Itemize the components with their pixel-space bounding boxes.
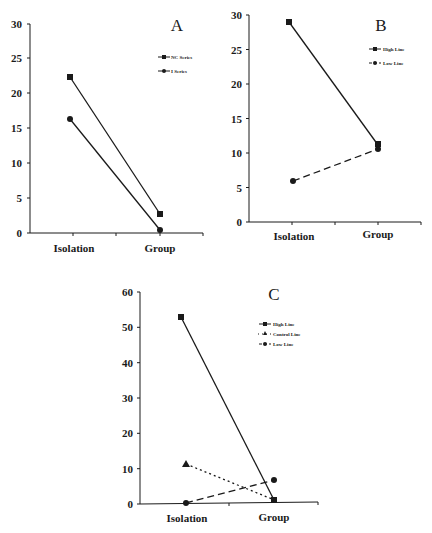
y-tick-label: 20: [11, 87, 23, 99]
legend-label: I Series: [171, 69, 187, 74]
series-high-line: [178, 314, 277, 503]
legend: NC Series I Series: [158, 55, 192, 74]
legend-label: Low Line: [273, 342, 294, 347]
legend-label: High Line: [383, 47, 405, 52]
circle-marker: [162, 69, 166, 73]
panel-label: A: [171, 16, 184, 35]
y-tick-label: 50: [122, 321, 134, 333]
y-tick-label: 15: [231, 113, 243, 125]
square-marker: [373, 47, 377, 51]
y-tick-label: 20: [231, 78, 243, 90]
x-category-label: Isolation: [167, 512, 208, 524]
x-category-label: Isolation: [274, 230, 315, 242]
figure: 0 5 10 15 20 25 30 Isolation Group A NC …: [0, 0, 432, 533]
y-tick-label: 60: [122, 286, 134, 298]
series-i: [67, 116, 163, 233]
y-tick-label: 20: [122, 427, 134, 439]
y-tick-label: 0: [17, 227, 23, 239]
panel-label: C: [268, 285, 279, 304]
legend-label: High Line: [273, 322, 295, 327]
y-tick-label: 25: [11, 52, 23, 64]
x-category-label: Group: [363, 228, 394, 240]
y-tick-label: 25: [231, 44, 243, 56]
series-low-line: [183, 477, 277, 506]
circle-marker: [183, 500, 189, 506]
panel-label: B: [375, 16, 386, 35]
square-marker: [67, 74, 73, 80]
y-tick-label: 10: [122, 463, 134, 475]
y-tick-label: 10: [231, 147, 243, 159]
legend-label: Control Line: [273, 332, 301, 337]
triangle-marker: [263, 331, 267, 335]
y-tick-label: 10: [11, 157, 23, 169]
square-marker: [286, 19, 292, 25]
y-tick-label: 30: [122, 392, 134, 404]
x-category-label: Isolation: [54, 242, 95, 254]
circle-marker: [375, 146, 381, 152]
x-category-label: Group: [259, 511, 290, 523]
chart-panel-a: 0 5 10 15 20 25 30 Isolation Group A NC …: [11, 16, 203, 254]
y-tick-label: 0: [128, 498, 134, 510]
legend-label: Low Line: [383, 61, 404, 66]
circle-marker: [373, 61, 377, 65]
chart-panel-b: 0 5 10 15 20 25 30 Isolation Group B Hig…: [231, 9, 421, 242]
square-marker: [263, 322, 267, 326]
square-marker: [162, 55, 166, 59]
y-tick-label: 15: [11, 122, 23, 134]
y-tick-label: 30: [11, 18, 23, 30]
circle-marker: [157, 227, 163, 233]
legend-label: NC Series: [171, 55, 192, 60]
legend: High Line Control Line Low Line: [258, 322, 301, 347]
circle-marker: [263, 342, 267, 346]
series-control-line: [182, 460, 272, 499]
series-high-line: [286, 19, 381, 147]
y-tick-label: 5: [17, 192, 23, 204]
chart-panel-c: 0 10 20 30 40 50 60 Isolation Group C: [122, 285, 318, 524]
y-tick-label: 30: [231, 9, 243, 21]
y-tick-label: 0: [237, 216, 243, 228]
series-nc: [67, 74, 163, 217]
y-tick-label: 40: [122, 357, 134, 369]
square-marker: [157, 211, 163, 217]
x-category-label: Group: [145, 242, 176, 254]
series-low-line: [290, 146, 381, 184]
triangle-marker: [182, 460, 190, 467]
circle-marker: [67, 116, 73, 122]
legend: High Line Low Line: [369, 47, 405, 66]
circle-marker: [271, 477, 277, 483]
square-marker: [178, 314, 184, 320]
y-tick-label: 5: [237, 182, 243, 194]
square-marker: [271, 497, 277, 503]
circle-marker: [290, 178, 296, 184]
